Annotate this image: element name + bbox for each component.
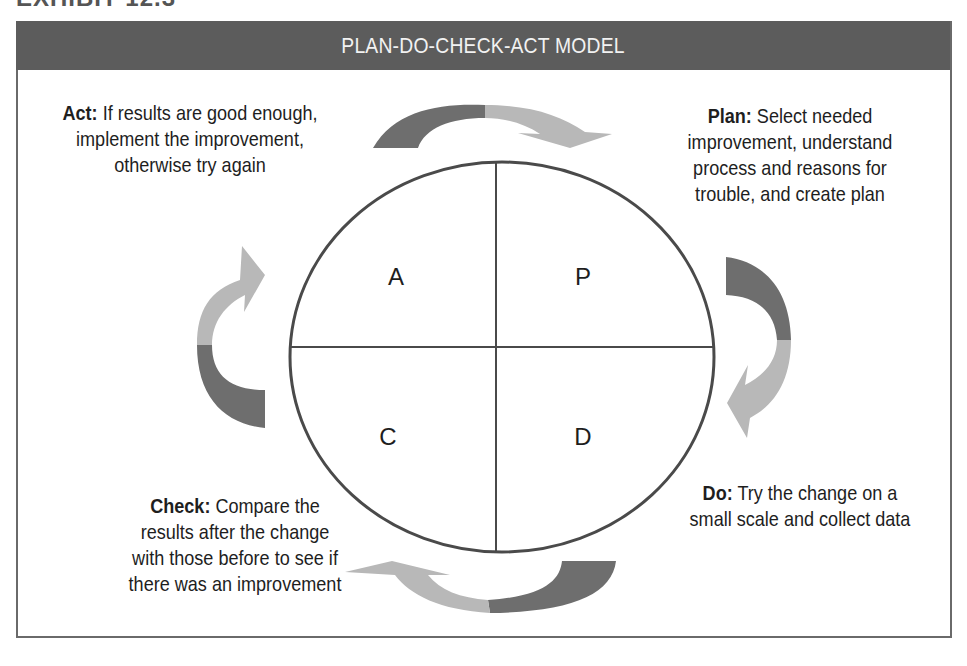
quadrant-act-letter: A: [388, 263, 404, 290]
act-term: Act:: [62, 101, 97, 124]
do-term: Do:: [703, 481, 733, 504]
quadrant-plan-letter: P: [575, 263, 591, 290]
arrow-do-to-check-icon: [345, 561, 616, 613]
act-description: Act: If results are good enough, impleme…: [35, 100, 345, 178]
quadrant-do-letter: D: [574, 423, 591, 450]
do-description: Do: Try the change on a small scale and …: [662, 480, 937, 532]
check-term: Check:: [150, 494, 210, 517]
plan-description: Plan: Select needed improvement, underst…: [661, 103, 919, 207]
arrow-check-to-act-icon: [197, 246, 265, 428]
check-description: Check: Compare the results after the cha…: [102, 493, 369, 597]
quadrant-check-letter: C: [379, 423, 396, 450]
plan-term: Plan:: [708, 104, 752, 127]
arrow-plan-to-do-icon: [726, 257, 791, 438]
arrow-act-to-plan-icon: [373, 105, 612, 148]
